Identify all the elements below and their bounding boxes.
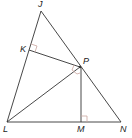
label-n: N xyxy=(120,125,127,134)
label-j: J xyxy=(38,0,43,9)
label-m: M xyxy=(77,125,85,134)
label-l: L xyxy=(3,125,8,134)
label-k: K xyxy=(20,45,26,54)
label-p: P xyxy=(83,57,89,66)
segment-kp xyxy=(29,50,80,67)
segment-lp xyxy=(7,67,80,122)
point-p xyxy=(79,66,81,68)
triangle-diagram xyxy=(0,0,132,138)
segment-jl xyxy=(7,11,41,122)
right-angle-mark-m xyxy=(81,116,87,122)
